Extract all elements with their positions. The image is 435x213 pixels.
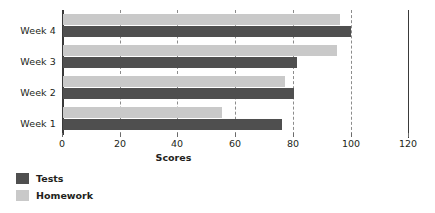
bar-week2-homework: [63, 76, 285, 87]
bar-week3-tests: [63, 57, 297, 68]
x-tick-40: [177, 133, 178, 137]
category-label-week4: Week 4: [20, 25, 56, 36]
category-label-week1: Week 1: [20, 118, 56, 129]
x-tick-label-0: 0: [59, 138, 65, 149]
x-tick-80: [293, 133, 294, 137]
legend-label-tests: Tests: [36, 173, 64, 184]
x-tick-label-80: 80: [287, 138, 299, 149]
bar-week4-homework: [63, 14, 340, 25]
bar-chart: Week 4 Week 3 Week 2 Week 1 0 20 40 60 8…: [0, 0, 435, 213]
x-tick-label-20: 20: [114, 138, 126, 149]
x-tick-0: [62, 133, 63, 137]
gridline-120: [408, 10, 409, 138]
chart-legend: Tests Homework: [16, 170, 93, 204]
bar-week4-tests: [63, 26, 351, 37]
x-tick-label-40: 40: [171, 138, 183, 149]
category-label-week3: Week 3: [20, 56, 56, 67]
x-tick-label-60: 60: [229, 138, 241, 149]
x-axis-title-text: Scores: [156, 152, 192, 163]
legend-item-tests[interactable]: Tests: [16, 170, 93, 187]
x-tick-100: [351, 133, 352, 137]
bar-week1-homework: [63, 107, 222, 118]
x-tick-label-120: 120: [399, 138, 417, 149]
legend-item-homework[interactable]: Homework: [16, 187, 93, 204]
legend-swatch-homework-icon: [16, 190, 29, 201]
legend-swatch-tests-icon: [16, 173, 29, 184]
plot-area: Week 4 Week 3 Week 2 Week 1 0 20 40 60 8…: [0, 0, 435, 213]
bar-week2-tests: [63, 88, 294, 99]
bar-week3-homework: [63, 45, 337, 56]
bar-week1-tests: [63, 119, 282, 130]
x-tick-label-100: 100: [342, 138, 360, 149]
x-tick-20: [120, 133, 121, 137]
x-tick-120: [408, 133, 409, 137]
category-label-week2: Week 2: [20, 87, 56, 98]
x-axis-title: Scores: [0, 152, 435, 163]
legend-label-homework: Homework: [36, 190, 93, 201]
x-tick-60: [235, 133, 236, 137]
